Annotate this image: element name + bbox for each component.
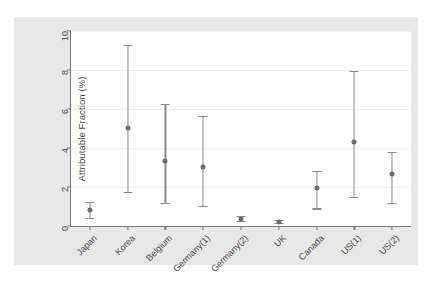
figure-panel: Attributable Fraction (%) 0246810 JapanK… bbox=[14, 17, 418, 265]
confidence-interval-upper-cap bbox=[388, 152, 397, 153]
x-tick-mark bbox=[203, 226, 204, 230]
gridline bbox=[71, 187, 411, 188]
confidence-interval-upper-cap bbox=[312, 171, 321, 172]
confidence-interval-line bbox=[203, 116, 204, 206]
confidence-interval-lower-cap bbox=[350, 197, 359, 198]
point-marker bbox=[87, 208, 92, 213]
y-tick-label: 0 bbox=[60, 226, 70, 231]
point-marker bbox=[239, 217, 244, 222]
point-marker bbox=[201, 164, 206, 169]
point-marker bbox=[276, 220, 281, 225]
x-tick-mark bbox=[392, 226, 393, 230]
point-marker bbox=[390, 172, 395, 177]
confidence-interval-upper-cap bbox=[161, 104, 170, 105]
y-axis-title: Attributable Fraction (%) bbox=[76, 76, 87, 181]
confidence-interval-upper-cap bbox=[123, 45, 132, 46]
gridline bbox=[71, 148, 411, 149]
y-tick-label: 8 bbox=[60, 70, 70, 75]
gridline bbox=[71, 109, 411, 110]
point-marker bbox=[352, 140, 357, 145]
point-marker bbox=[163, 158, 168, 163]
figure-caption bbox=[14, 286, 418, 295]
gridline bbox=[71, 31, 411, 32]
x-tick-mark bbox=[127, 226, 128, 230]
x-tick-mark bbox=[354, 226, 355, 230]
x-tick-mark bbox=[89, 226, 90, 230]
confidence-interval-line bbox=[354, 71, 355, 197]
y-tick-label: 2 bbox=[60, 187, 70, 192]
confidence-interval-lower-cap bbox=[199, 206, 208, 207]
confidence-interval-upper-cap bbox=[199, 116, 208, 117]
plot-region: Attributable Fraction (%) 0246810 JapanK… bbox=[70, 31, 411, 227]
confidence-interval-line bbox=[392, 152, 393, 203]
x-tick-mark bbox=[278, 226, 279, 230]
confidence-interval-upper-cap bbox=[85, 202, 94, 203]
x-tick-mark bbox=[316, 226, 317, 230]
y-tick-label: 4 bbox=[60, 148, 70, 153]
confidence-interval-line bbox=[165, 104, 166, 202]
y-tick-label: 10 bbox=[60, 31, 70, 41]
confidence-interval-lower-cap bbox=[312, 208, 321, 209]
confidence-interval-lower-cap bbox=[161, 203, 170, 204]
x-tick-mark bbox=[240, 226, 241, 230]
point-marker bbox=[314, 185, 319, 190]
confidence-interval-lower-cap bbox=[85, 218, 94, 219]
confidence-interval-upper-cap bbox=[350, 71, 359, 72]
x-tick-mark bbox=[165, 226, 166, 230]
y-tick-label: 6 bbox=[60, 109, 70, 114]
point-marker bbox=[125, 125, 130, 130]
confidence-interval-lower-cap bbox=[388, 203, 397, 204]
confidence-interval-line bbox=[127, 45, 128, 192]
confidence-interval-lower-cap bbox=[123, 192, 132, 193]
gridline bbox=[71, 70, 411, 71]
